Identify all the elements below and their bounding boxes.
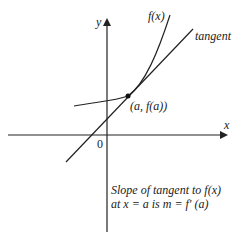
caption-line-2: at x = a is m = f' (a) (111, 197, 208, 211)
tangent-label: tangent (195, 29, 232, 43)
function-curve (74, 15, 170, 106)
tangent-point (126, 94, 131, 99)
origin-label: 0 (97, 137, 103, 151)
tangent-diagram: y x 0 f(x) tangent (a, f(a)) Slope of ta… (0, 0, 239, 239)
x-axis-label: x (223, 118, 230, 132)
curve-label: f(x) (148, 9, 165, 23)
point-label: (a, f(a)) (130, 99, 167, 113)
y-axis-label: y (95, 15, 102, 29)
caption-line-1: Slope of tangent to f(x) (111, 183, 221, 197)
